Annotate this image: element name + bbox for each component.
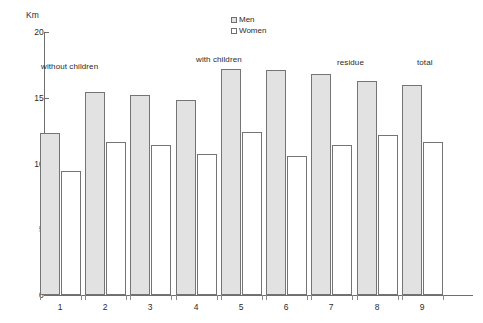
- x-axis-line: [44, 295, 473, 296]
- x-tick-label: 4: [186, 302, 206, 312]
- bar-chart: Km 05101520 123456789 without childrenwi…: [0, 0, 483, 323]
- group-annotation-total: total: [417, 58, 433, 67]
- bar-women-3: [151, 145, 171, 295]
- x-tick-mark: [171, 295, 172, 300]
- x-tick-label: 5: [231, 302, 251, 312]
- legend-label-men: Men: [239, 15, 255, 24]
- x-tick-mark: [40, 295, 41, 300]
- legend-swatch-men-icon: [231, 17, 237, 23]
- y-tick-label-wrap: 20: [0, 27, 44, 37]
- x-tick-mark: [221, 295, 222, 300]
- legend-item-men: Men: [231, 14, 266, 25]
- x-tick-mark: [266, 295, 267, 300]
- y-tick-mark: [44, 98, 49, 99]
- x-tick-label: 8: [367, 302, 387, 312]
- legend-item-women: Women: [231, 25, 266, 36]
- bar-men-1: [40, 133, 60, 295]
- x-tick-label: 1: [50, 302, 70, 312]
- bar-men-5: [221, 69, 241, 295]
- y-tick-label-wrap: 10: [0, 159, 44, 169]
- x-tick-mark: [130, 295, 131, 300]
- x-tick-mark: [398, 295, 399, 300]
- bar-men-8: [357, 81, 377, 295]
- x-tick-label: 3: [140, 302, 160, 312]
- x-tick-label: 6: [276, 302, 296, 312]
- x-tick-mark: [176, 295, 177, 300]
- bar-men-9: [402, 85, 422, 295]
- y-tick-mark: [44, 295, 49, 296]
- x-tick-mark: [217, 295, 218, 300]
- bar-women-6: [287, 156, 307, 295]
- y-tick-label: 20: [18, 27, 44, 37]
- y-tick-label-wrap: 5: [0, 224, 44, 234]
- x-tick-mark: [402, 295, 403, 300]
- bar-women-9: [423, 142, 443, 295]
- x-tick-label: 2: [95, 302, 115, 312]
- x-tick-mark: [443, 295, 444, 300]
- bar-men-2: [85, 92, 105, 295]
- bar-women-2: [106, 142, 126, 295]
- bar-men-6: [266, 70, 286, 295]
- bar-women-7: [332, 145, 352, 295]
- x-tick-mark: [262, 295, 263, 300]
- bar-women-8: [378, 135, 398, 295]
- group-annotation-without-children: without children: [41, 62, 98, 71]
- bar-men-7: [311, 74, 331, 295]
- group-annotation-with-children: with children: [196, 55, 242, 64]
- x-tick-mark: [311, 295, 312, 300]
- bar-women-1: [61, 171, 81, 295]
- legend-label-women: Women: [239, 26, 266, 35]
- x-tick-mark: [357, 295, 358, 300]
- x-tick-mark: [81, 295, 82, 300]
- y-tick-label-wrap: 15: [0, 93, 44, 103]
- y-axis-title: Km: [26, 10, 39, 20]
- y-tick-label-wrap: 0: [0, 290, 44, 300]
- x-tick-label: 9: [412, 302, 432, 312]
- bar-women-5: [242, 132, 262, 295]
- x-tick-mark: [307, 295, 308, 300]
- y-tick-mark: [44, 32, 49, 33]
- group-annotation-residue: residue: [337, 58, 364, 67]
- bar-men-3: [130, 95, 150, 295]
- x-tick-mark: [352, 295, 353, 300]
- x-tick-mark: [126, 295, 127, 300]
- legend: Men Women: [231, 14, 266, 36]
- bar-men-4: [176, 100, 196, 295]
- legend-swatch-women-icon: [231, 28, 237, 34]
- x-tick-label: 7: [321, 302, 341, 312]
- x-tick-mark: [85, 295, 86, 300]
- y-tick-label: 15: [18, 93, 44, 103]
- bar-women-4: [197, 154, 217, 295]
